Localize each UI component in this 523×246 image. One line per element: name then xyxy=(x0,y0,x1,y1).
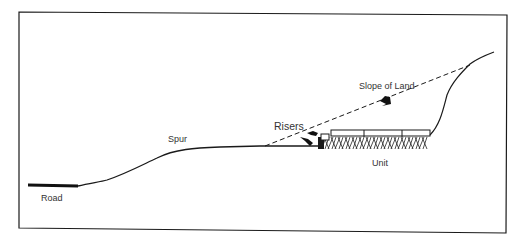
spur-label: Spur xyxy=(168,134,187,144)
spur-ground-line xyxy=(78,146,318,186)
diagram-frame xyxy=(19,12,507,233)
road-line xyxy=(28,185,78,186)
slope-arrow-icon xyxy=(380,96,391,106)
unit-structure xyxy=(331,130,430,137)
slope-of-land-dashed-line xyxy=(265,65,470,146)
unit-hatch-fill xyxy=(322,137,427,149)
hillside-line xyxy=(430,52,494,135)
risers-arrow-icon xyxy=(300,131,318,146)
unit-roof xyxy=(331,130,430,136)
terrain-cross-section-diagram: Road Spur Risers Slope of Land Unit xyxy=(0,0,523,246)
riser-box xyxy=(321,134,329,140)
road-label: Road xyxy=(41,193,63,203)
slope-of-land-label: Slope of Land xyxy=(359,81,415,91)
unit-label: Unit xyxy=(372,158,389,168)
risers-label: Risers xyxy=(274,120,304,132)
